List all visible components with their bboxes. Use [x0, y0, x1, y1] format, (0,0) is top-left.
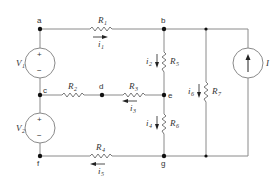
circuit-diagram: R1 R2 R3 R4 R5 R6 R7 + − V1 + − V2: [0, 0, 275, 189]
current-arrow-i2: i2: [146, 54, 159, 68]
node-f: [38, 154, 42, 158]
current-arrow-i6: i6: [188, 84, 201, 98]
svg-text:6: 6: [191, 91, 194, 97]
svg-text:−: −: [37, 131, 42, 140]
svg-text:5: 5: [101, 171, 104, 177]
current-source-i: I: [233, 48, 270, 78]
node-g: [162, 154, 166, 158]
svg-text:R: R: [169, 56, 176, 66]
node-label-b: b: [161, 16, 166, 25]
svg-text:5: 5: [176, 61, 179, 67]
svg-text:2: 2: [149, 61, 152, 67]
svg-text:R: R: [97, 15, 104, 25]
resistor-r7: R7: [204, 82, 222, 102]
node-label-a: a: [37, 16, 42, 25]
svg-text:2: 2: [74, 86, 77, 92]
svg-text:I: I: [265, 58, 270, 68]
svg-text:R: R: [95, 142, 102, 152]
resistor-r5: R5: [162, 52, 179, 72]
svg-text:1: 1: [104, 20, 107, 26]
svg-text:R: R: [169, 118, 176, 128]
svg-text:+: +: [37, 50, 42, 59]
current-arrow-i5: i5: [90, 162, 105, 177]
svg-text:1: 1: [101, 44, 104, 50]
svg-text:R: R: [211, 86, 218, 96]
node-label-d: d: [99, 82, 103, 91]
svg-text:7: 7: [218, 91, 222, 97]
resistor-r1: R1: [90, 15, 112, 31]
svg-text:R: R: [128, 81, 135, 91]
node-label-e: e: [168, 91, 173, 100]
node-e: [162, 93, 166, 97]
svg-text:6: 6: [176, 123, 179, 129]
svg-text:+: +: [37, 115, 42, 124]
node-label-f: f: [37, 159, 40, 168]
voltage-source-v1: + − V1: [16, 48, 55, 78]
svg-text:3: 3: [132, 108, 136, 114]
node-label-c: c: [43, 86, 47, 95]
node-b: [162, 27, 166, 31]
svg-text:1: 1: [22, 63, 25, 69]
current-arrow-i1: i1: [93, 35, 108, 50]
resistor-r6: R6: [162, 114, 179, 134]
current-arrow-i4: i4: [146, 116, 159, 130]
node-d: [100, 93, 104, 97]
node-c: [38, 93, 42, 97]
svg-text:4: 4: [149, 123, 152, 129]
svg-text:3: 3: [134, 86, 138, 92]
resistor-r4: R4: [90, 142, 112, 158]
current-arrow-i3: i3: [122, 99, 137, 114]
node-label-g: g: [161, 159, 165, 168]
resistor-r3: R3: [123, 81, 145, 97]
svg-text:R: R: [67, 81, 74, 91]
nodes: [38, 27, 208, 158]
svg-text:−: −: [37, 66, 42, 75]
node-a: [38, 27, 42, 31]
svg-text:2: 2: [22, 128, 25, 134]
svg-text:4: 4: [102, 147, 105, 153]
resistor-r2: R2: [62, 81, 84, 97]
voltage-source-v2: + − V2: [16, 113, 55, 143]
